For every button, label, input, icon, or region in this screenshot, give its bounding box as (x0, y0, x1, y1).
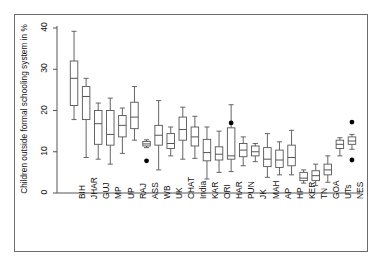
box-iqr (276, 150, 284, 167)
box-iqr (107, 111, 115, 146)
outlier-point (350, 120, 355, 125)
x-tick-label: CHAT (186, 177, 196, 199)
boxplot-box (179, 107, 187, 159)
boxplot-box (239, 137, 247, 166)
y-tick-label: 30 (39, 59, 49, 77)
box-iqr (119, 115, 127, 136)
x-tick-label: HAR (234, 181, 244, 199)
boxplot-box (215, 131, 223, 172)
boxplot-box (264, 134, 272, 178)
boxplot-box (94, 103, 102, 159)
box-iqr (70, 61, 78, 106)
box-iqr (131, 102, 139, 128)
x-tick-label: AP (283, 188, 293, 199)
boxplot-box (107, 98, 115, 164)
x-tick-label: GOA (331, 180, 341, 199)
boxplot-box (82, 78, 90, 157)
y-tick-label: 0 (39, 183, 49, 201)
boxplot-box (252, 144, 260, 162)
boxplot-box (191, 116, 199, 158)
boxplot-box (276, 142, 284, 175)
box-iqr (167, 134, 175, 149)
outlier-point (144, 158, 149, 163)
y-tick-label: 40 (39, 18, 49, 36)
x-tick-label: KAR (210, 182, 220, 199)
x-tick-label: WB (162, 186, 172, 200)
boxplot-box (131, 87, 139, 141)
y-tick-label: 20 (39, 101, 49, 119)
box-iqr (82, 87, 90, 120)
x-tick-label: MP (113, 186, 123, 199)
x-tick-label: BIH (77, 185, 87, 199)
box-iqr (252, 146, 260, 156)
x-tick-label: RAJ (138, 183, 148, 199)
x-tick-label: GUJ (101, 182, 111, 199)
outlier-point (350, 158, 355, 163)
x-tick-label: UTs (343, 185, 353, 199)
y-tick-label: 10 (39, 142, 49, 160)
x-tick-label: KER (307, 182, 317, 199)
boxplot-box (155, 101, 163, 170)
x-tick-label: HP (295, 187, 305, 199)
x-tick-label: MAH (271, 180, 281, 199)
chart-canvas (0, 0, 385, 268)
x-tick-label: India (198, 181, 208, 199)
box-iqr (179, 117, 187, 140)
boxplot-box (203, 127, 211, 179)
x-tick-label: TN (319, 188, 329, 199)
x-tick-label: JK (258, 189, 268, 199)
x-tick-label: UP (126, 187, 136, 199)
box-iqr (203, 139, 211, 160)
x-tick-label: ASS (150, 182, 160, 199)
boxplot-box (324, 156, 332, 182)
boxplot-box (336, 138, 344, 156)
boxplot-box (70, 31, 78, 119)
boxplot-chart: Children outside formal schooling system… (0, 0, 385, 268)
boxplot-box (167, 127, 175, 156)
boxplot-box (348, 120, 356, 163)
box-iqr (264, 148, 272, 167)
x-tick-label: NES (355, 182, 365, 199)
boxplot-box (227, 105, 235, 172)
box-iqr (227, 128, 235, 159)
box-iqr (300, 172, 308, 180)
x-tick-label: PUN (246, 181, 256, 199)
outlier-point (229, 120, 234, 125)
x-tick-label: JHAR (89, 177, 99, 199)
boxplot-box (119, 108, 127, 153)
boxplot-box (143, 140, 151, 163)
box-iqr (94, 111, 102, 145)
box-iqr (215, 147, 223, 160)
box-iqr (288, 145, 296, 166)
boxplot-box (288, 130, 296, 175)
x-tick-label: ORI (222, 184, 232, 199)
x-tick-label: UK (174, 187, 184, 199)
